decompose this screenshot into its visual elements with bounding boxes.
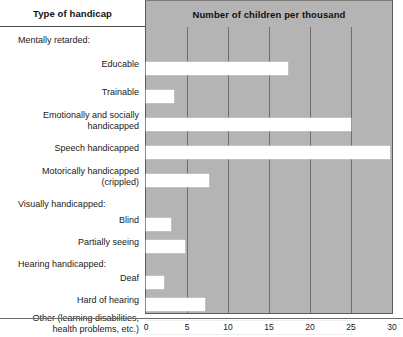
- bar: [146, 218, 171, 231]
- bar: [146, 321, 351, 334]
- x-tick-label-0: 0: [144, 322, 149, 332]
- bar-chart-figure: Type of handicap Number of children per …: [0, 0, 403, 337]
- category-group-label: Hearing handicapped:: [18, 259, 106, 270]
- category-label: Educable: [101, 59, 139, 70]
- category-label: Emotionally and socially handicapped: [43, 110, 139, 131]
- category-label: Deaf: [120, 273, 139, 284]
- category-label: Partially seeing: [78, 237, 139, 248]
- bar: [146, 62, 288, 75]
- type-of-handicap-title: Type of handicap: [33, 8, 112, 19]
- category-label: Blind: [119, 215, 139, 226]
- category-label: Other (learning disabilities, health pro…: [32, 313, 139, 334]
- gridline-20: [310, 27, 311, 314]
- x-tick-label-30: 30: [387, 322, 396, 332]
- x-tick-label-20: 20: [305, 322, 314, 332]
- right-header-cell: Number of children per thousand: [145, 0, 393, 27]
- category-group-label: Visually handicapped:: [18, 199, 105, 210]
- category-label: Hard of hearing: [77, 295, 139, 306]
- category-label: Speech handicapped: [54, 143, 139, 154]
- x-tick-label-5: 5: [185, 322, 190, 332]
- plot-bottom-border: [145, 313, 393, 314]
- bar: [146, 174, 209, 187]
- x-tick-label-15: 15: [264, 322, 273, 332]
- gridline-25: [351, 27, 352, 314]
- category-group-label: Mentally retarded:: [18, 35, 90, 46]
- chart-header: Type of handicap Number of children per …: [0, 0, 403, 27]
- bar: [146, 118, 351, 131]
- x-tick-label-25: 25: [346, 322, 355, 332]
- plot-area: [145, 27, 393, 314]
- number-of-children-title: Number of children per thousand: [193, 9, 346, 20]
- bar: [146, 90, 174, 103]
- bar: [146, 240, 185, 253]
- bar: [146, 276, 164, 289]
- bar: [146, 298, 205, 311]
- x-axis-line: [0, 318, 403, 319]
- category-label: Motorically handicapped (crippled): [42, 166, 139, 187]
- category-labels-column: Mentally retarded:EducableTrainableEmoti…: [0, 27, 143, 314]
- x-tick-label-10: 10: [223, 322, 232, 332]
- category-label: Trainable: [102, 87, 139, 98]
- left-header-cell: Type of handicap: [0, 0, 145, 27]
- bar: [146, 146, 390, 159]
